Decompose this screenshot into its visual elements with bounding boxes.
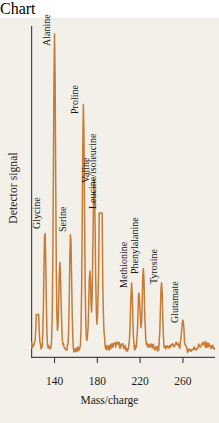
x-axis-title: Mass/charge	[0, 394, 219, 406]
spectrum-trace-svg	[31, 26, 215, 367]
y-axis-title-text: Detector signal	[7, 152, 19, 223]
y-axis-title: Detector signal	[2, 18, 24, 358]
x-axis-tick-label: 260	[163, 375, 203, 387]
plot-area: GlycineAlanineSerineProlineValineLeucine…	[31, 26, 215, 367]
x-axis-tick-label: 220	[120, 375, 160, 387]
detector-signal-trace	[31, 34, 215, 352]
x-axis-tick-label: 140	[35, 375, 75, 387]
x-axis-tick-label: 180	[77, 375, 117, 387]
mass-spectrum-figure: Detector signal GlycineAlanineSerineProl…	[0, 18, 219, 423]
